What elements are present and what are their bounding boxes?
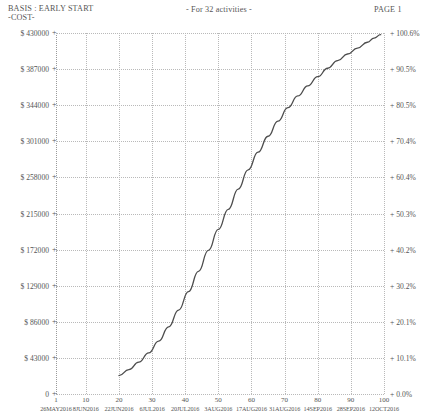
y-axis-left-tick-mark: + [52, 29, 57, 37]
gridline-vertical [384, 33, 385, 394]
y-axis-left-tick-mark: + [52, 246, 57, 254]
y-axis-left-tick-label: 0 [0, 390, 49, 399]
y-axis-left-tick-mark: + [52, 354, 57, 362]
y-axis-left-tick-mark: + [52, 210, 57, 218]
x-axis-tick-date: 26MAY2016 [40, 405, 72, 412]
x-axis-tick-number: 90 [347, 396, 354, 404]
y-axis-left-tick-label: $ 172000 [0, 246, 49, 255]
y-axis-left-tick-label: $ 258000 [0, 173, 49, 182]
x-axis-tick-date: 14SEP2016 [304, 405, 332, 412]
y-axis-right-tick-label: + 30.2% [390, 282, 438, 291]
x-axis-tick-date: 6JUL2016 [139, 405, 164, 412]
x-axis-tick-number: 80 [314, 396, 321, 404]
x-axis-tick-date: 20JUL2016 [171, 405, 199, 412]
y-axis-left-tick-mark: + [52, 137, 57, 145]
x-axis-tick-number: 50 [215, 396, 222, 404]
x-axis-tick-number: 30 [149, 396, 156, 404]
y-axis-left-tick-mark: + [52, 101, 57, 109]
y-axis-left-tick-mark: + [52, 65, 57, 73]
y-axis-right-tick-label: + 70.4% [390, 137, 438, 146]
y-axis-left-tick-mark: + [52, 282, 57, 290]
x-axis-tick-date: 3AUG2016 [204, 405, 232, 412]
x-axis-tick-number: 10 [82, 396, 89, 404]
y-axis-left-tick-label: $ 387000 [0, 65, 49, 74]
cost-curve [56, 33, 384, 394]
y-axis-left-tick-mark: + [52, 173, 57, 181]
y-axis-left-tick-label: $ 344000 [0, 101, 49, 110]
y-axis-left-tick-mark: + [52, 318, 57, 326]
y-axis-right-tick-label: + 40.2% [390, 246, 438, 255]
x-axis-tick-date: 17AUG2016 [236, 405, 267, 412]
x-axis-tick-number: 70 [281, 396, 288, 404]
y-axis-left-tick-label: $ 129000 [0, 282, 49, 291]
y-axis-right-tick-label: + 60.4% [390, 173, 438, 182]
x-axis-tick-date: 22JUN2016 [104, 405, 133, 412]
y-axis-right-tick-label: + 50.3% [390, 210, 438, 219]
gridline-horizontal [56, 394, 384, 395]
y-axis-right-tick-label: + 90.5% [390, 65, 438, 74]
y-axis-right-tick-label: + 0.0% [390, 390, 438, 399]
x-axis-tick-date: 12OCT2016 [369, 405, 399, 412]
x-axis-tick-number: 60 [248, 396, 255, 404]
y-axis-right-tick-label: + 80.5% [390, 101, 438, 110]
y-axis-left-tick-label: $ 301000 [0, 137, 49, 146]
x-axis-tick-number: 1 [54, 396, 58, 404]
y-axis-left-tick-label: $ 86000 [0, 318, 49, 327]
plot-area [56, 33, 384, 394]
x-axis-tick-number: 100 [379, 396, 390, 404]
y-axis-left-tick-label: $ 215000 [0, 210, 49, 219]
x-axis-tick-number: 20 [115, 396, 122, 404]
cost-s-curve-chart: $ 430000+$ 387000+$ 344000+$ 301000+$ 25… [0, 0, 438, 417]
y-axis-left-tick-label: $ 430000 [0, 29, 49, 38]
x-axis-tick-number: 40 [182, 396, 189, 404]
y-axis-left-tick-label: $ 43000 [0, 354, 49, 363]
x-axis-tick-date: 8JUN2016 [73, 405, 99, 412]
y-axis-right-tick-label: + 100.6% [390, 29, 438, 38]
y-axis-right-tick-label: + 10.1% [390, 354, 438, 363]
x-axis-tick-date: 31AUG2016 [269, 405, 300, 412]
y-axis-right-tick-label: + 20.1% [390, 318, 438, 327]
x-axis-tick-date: 28SEP2016 [337, 405, 365, 412]
